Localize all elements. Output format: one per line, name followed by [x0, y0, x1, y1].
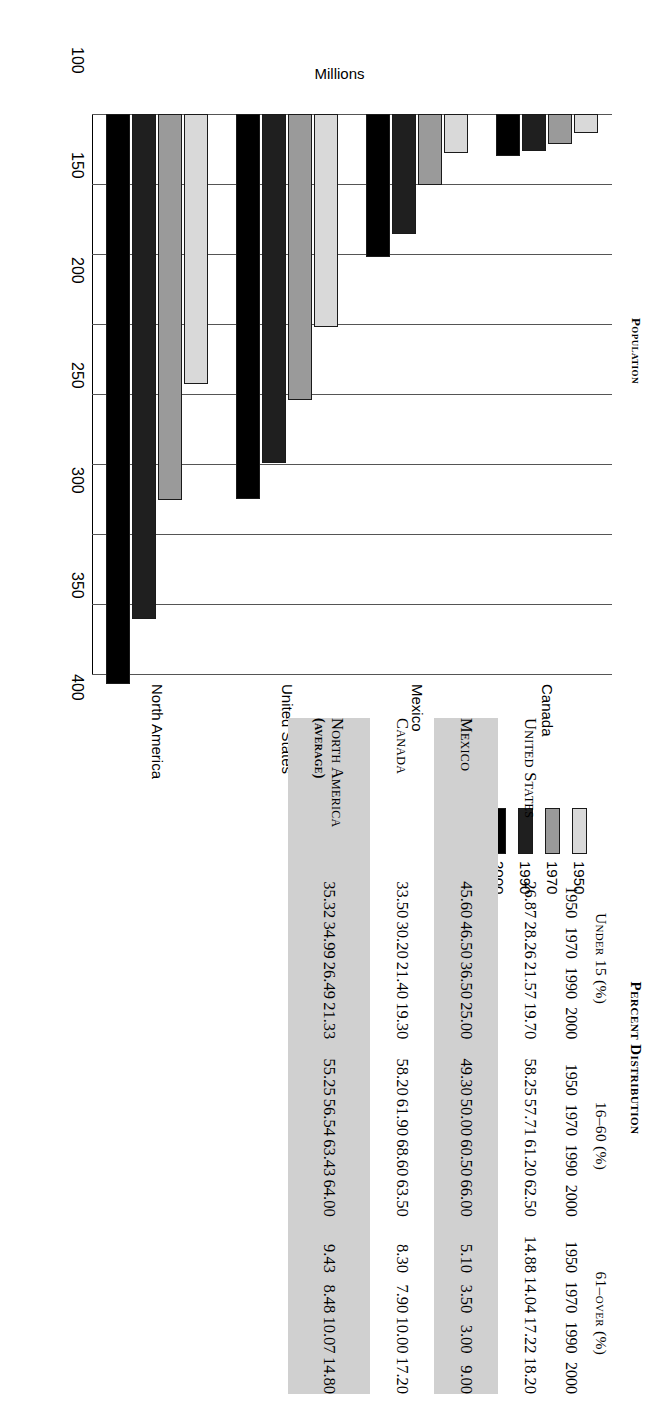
chart-axis-label-millions: Millions — [295, 65, 385, 82]
gridline-400 — [92, 674, 612, 675]
cell-mid-1: 61.90 — [370, 1096, 434, 1136]
bar-group-mexico — [352, 114, 482, 674]
bar-row — [391, 114, 417, 674]
bar-row — [131, 114, 157, 674]
population-chart: Population Millions 05010015020025030035… — [8, 18, 648, 718]
bar-canada-2000[interactable] — [496, 114, 520, 156]
spacer-3 — [562, 1039, 592, 1055]
cell-under15-0: 26.87 — [498, 878, 562, 918]
rotated-page-wrapper: Population Millions 05010015020025030035… — [0, 0, 656, 1412]
cell-over61-3: 14.80 — [288, 1354, 370, 1394]
bar-north-america-1970[interactable] — [158, 114, 182, 500]
cell-over61-3: 18.20 — [498, 1354, 562, 1394]
bar-canada-1990[interactable] — [522, 114, 546, 151]
chart-bar-groups — [92, 114, 612, 674]
cell-mid-2: 60.50 — [434, 1136, 498, 1176]
year-mid-1970: 1970 — [562, 1096, 592, 1136]
year-under15-1970: 1970 — [562, 918, 592, 958]
table-year-header-row: 1950 1970 1990 2000 1950 1970 1990 2000 … — [562, 718, 592, 1394]
row-label-north-america: North America(average) — [288, 718, 370, 878]
percent-distribution-table: Under 15 (%) 16–60 (%) 61–over (%) 1950 … — [288, 718, 616, 1394]
cell-under15-2: 21.40 — [370, 959, 434, 999]
cell-mid-0: 58.25 — [498, 1055, 562, 1095]
bar-united-states-1970[interactable] — [288, 114, 312, 400]
cell-over61-2: 10.00 — [370, 1313, 434, 1353]
cell-mid-3: 66.00 — [434, 1176, 498, 1216]
cell-under15-2: 36.50 — [434, 959, 498, 999]
year-under15-2000: 2000 — [562, 999, 592, 1039]
bar-united-states-2000[interactable] — [236, 114, 260, 499]
bar-mexico-1950[interactable] — [444, 114, 468, 153]
table-row: Mexico45.6046.5036.5025.0049.3050.0060.5… — [434, 718, 498, 1394]
spacer-2 — [592, 1217, 616, 1233]
cell-under15-0: 45.60 — [434, 878, 498, 918]
cell-spacer-a1 — [434, 1039, 498, 1055]
cell-under15-3: 19.30 — [370, 999, 434, 1039]
bar-north-america-1990[interactable] — [132, 114, 156, 619]
row-label-year-cell — [562, 718, 592, 878]
table-group-header-row: Under 15 (%) 16–60 (%) 61–over (%) — [592, 718, 616, 1394]
bar-row — [235, 114, 261, 674]
bar-row — [521, 114, 547, 674]
cell-spacer-b3 — [288, 1217, 370, 1233]
bar-row — [313, 114, 339, 674]
cell-under15-1: 30.20 — [370, 918, 434, 958]
bar-group-canada — [482, 114, 612, 674]
cell-under15-2: 26.49 — [288, 959, 370, 999]
bar-canada-1950[interactable] — [574, 114, 598, 133]
cell-spacer-b2 — [370, 1217, 434, 1233]
bar-north-america-1950[interactable] — [184, 114, 208, 384]
cell-over61-3: 9.00 — [434, 1354, 498, 1394]
cell-under15-1: 46.50 — [434, 918, 498, 958]
cell-mid-3: 63.50 — [370, 1176, 434, 1216]
row-label-canada: Canada — [370, 718, 434, 878]
bar-mexico-1970[interactable] — [418, 114, 442, 185]
group-header-under15: Under 15 (%) — [592, 878, 616, 1039]
bar-united-states-1990[interactable] — [262, 114, 286, 463]
bar-north-america-2000[interactable] — [106, 114, 130, 684]
cell-under15-1: 28.26 — [498, 918, 562, 958]
year-mid-1990: 1990 — [562, 1136, 592, 1176]
bar-mexico-2000[interactable] — [366, 114, 390, 257]
bar-canada-1970[interactable] — [548, 114, 572, 144]
cell-under15-1: 34.99 — [288, 918, 370, 958]
table-row: Canada33.5030.2021.4019.3058.2061.9068.6… — [370, 718, 434, 1394]
cell-mid-1: 56.54 — [288, 1096, 370, 1136]
year-over61-1970: 1970 — [562, 1273, 592, 1313]
year-mid-2000: 2000 — [562, 1176, 592, 1216]
cell-spacer-b0 — [498, 1217, 562, 1233]
bar-united-states-1950[interactable] — [314, 114, 338, 327]
year-mid-1950: 1950 — [562, 1055, 592, 1095]
cell-under15-3: 19.70 — [498, 999, 562, 1039]
row-label-header-cell — [592, 718, 616, 878]
bar-mexico-1990[interactable] — [392, 114, 416, 234]
cell-under15-0: 35.32 — [288, 878, 370, 918]
spacer-4 — [562, 1217, 592, 1233]
cell-over61-1: 7.90 — [370, 1273, 434, 1313]
cell-over61-3: 17.20 — [370, 1354, 434, 1394]
cell-over61-1: 3.50 — [434, 1273, 498, 1313]
cell-spacer-a0 — [498, 1039, 562, 1055]
cell-under15-3: 21.33 — [288, 999, 370, 1039]
cell-mid-3: 62.50 — [498, 1176, 562, 1216]
cell-mid-2: 68.60 — [370, 1136, 434, 1176]
cell-over61-0: 9.43 — [288, 1233, 370, 1273]
bar-row — [573, 114, 599, 674]
cell-over61-1: 14.04 — [498, 1273, 562, 1313]
cell-under15-0: 33.50 — [370, 878, 434, 918]
bar-row — [105, 114, 131, 674]
year-over61-1950: 1950 — [562, 1233, 592, 1273]
cell-under15-3: 25.00 — [434, 999, 498, 1039]
cell-mid-1: 57.71 — [498, 1096, 562, 1136]
bar-row — [417, 114, 443, 674]
year-under15-1950: 1950 — [562, 878, 592, 918]
cell-over61-2: 10.07 — [288, 1313, 370, 1353]
figure-root: Population Millions 05010015020025030035… — [0, 0, 656, 1412]
group-header-61-over: 61–over (%) — [592, 1233, 616, 1394]
chart-plot-area — [92, 114, 612, 674]
cell-over61-0: 14.88 — [498, 1233, 562, 1273]
year-over61-2000: 2000 — [562, 1354, 592, 1394]
table-head: Under 15 (%) 16–60 (%) 61–over (%) 1950 … — [562, 718, 616, 1394]
bar-row — [547, 114, 573, 674]
table-body: United States26.8728.2621.5719.7058.2557… — [288, 718, 562, 1394]
